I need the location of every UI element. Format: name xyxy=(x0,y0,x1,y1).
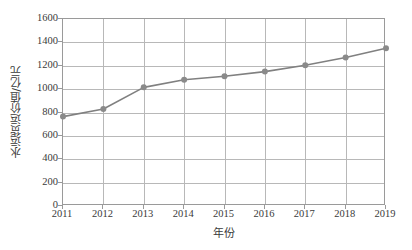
data-point-marker: 2019: 1350 xyxy=(383,45,389,51)
y-axis-tick-label: 1000 xyxy=(24,83,58,93)
x-axis-tick-label: 2012 xyxy=(79,207,125,221)
data-point-marker: 2015: 1110 xyxy=(222,73,228,79)
x-axis-tick-label: 2013 xyxy=(120,207,166,221)
y-axis-tick-label: 1400 xyxy=(24,36,58,46)
x-axis-tick-label: 2018 xyxy=(322,207,368,221)
y-axis-tick-label: 1200 xyxy=(24,60,58,70)
plot-area: 2011: 7652012: 8302013: 10152014: 108020… xyxy=(62,18,385,205)
y-axis-tick-label: 1600 xyxy=(24,13,58,23)
data-point-marker: 2016: 1150 xyxy=(262,69,268,75)
chart-container: 水运货运价值/亿元 16001400120010008006004002000 … xyxy=(0,0,412,250)
data-point-marker: 2013: 1015 xyxy=(141,84,147,90)
data-point-marker: 2011: 765 xyxy=(60,114,66,120)
y-axis-tick-label: 600 xyxy=(24,130,58,140)
y-axis-tick-label: 400 xyxy=(24,153,58,163)
x-axis-tick-labels: 201120122013201420152016201720182019 xyxy=(62,207,385,223)
data-point-marker: 2018: 1270 xyxy=(343,55,349,61)
y-axis-tick-label: 200 xyxy=(24,177,58,187)
data-point-marker: 2014: 1080 xyxy=(181,77,187,83)
y-axis-title-text: 水运货运价值/亿元 xyxy=(9,66,25,158)
y-axis-title: 水运货运价值/亿元 xyxy=(9,18,25,205)
x-axis-tick-label: 2016 xyxy=(241,207,287,221)
y-axis-tick-label: 800 xyxy=(24,107,58,117)
series-line xyxy=(63,48,386,116)
x-axis-tick-label: 2017 xyxy=(281,207,327,221)
x-axis-tick-label: 2015 xyxy=(201,207,247,221)
x-axis-tick-label: 2011 xyxy=(39,207,85,221)
x-axis-tick-label: 2014 xyxy=(160,207,206,221)
data-point-marker: 2017: 1205 xyxy=(302,62,308,68)
x-axis-title: 年份 xyxy=(62,224,385,240)
line-series-svg: 2011: 7652012: 8302013: 10152014: 108020… xyxy=(63,19,386,206)
x-axis-tick-label: 2019 xyxy=(362,207,408,221)
data-point-marker: 2012: 830 xyxy=(100,106,106,112)
data-series-layer: 2011: 7652012: 8302013: 10152014: 108020… xyxy=(63,19,384,204)
y-axis-tick-labels: 16001400120010008006004002000 xyxy=(24,18,58,205)
